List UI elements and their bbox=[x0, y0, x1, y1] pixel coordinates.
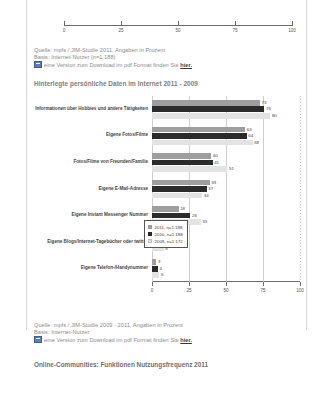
axis-tick-label: 50 bbox=[175, 28, 180, 33]
bar: 3 bbox=[152, 259, 156, 265]
bar-value-label: 51 bbox=[229, 165, 234, 172]
category-label: Fotos/Filme von Freunden/Familie bbox=[73, 160, 148, 165]
statistics-page: 0255075100 Quelle: mpfs / JIM-Studie 201… bbox=[0, 0, 329, 394]
category-label: Informationen über Hobbies und andere Tä… bbox=[35, 107, 148, 112]
legend-swatch bbox=[148, 225, 152, 229]
bar: 80 bbox=[152, 113, 270, 119]
bar: 37 bbox=[152, 186, 207, 192]
source-line-basis-bottom: Basis: Internet-Nutzer bbox=[34, 329, 192, 336]
axis-tick bbox=[178, 21, 179, 26]
bar-group: Fotos/Filme von Freunden/Familie404151 bbox=[152, 153, 300, 172]
download-link-bottom[interactable]: hier. bbox=[180, 337, 192, 343]
legend-label: 2009, n=1.172 bbox=[155, 239, 183, 244]
bar: 63 bbox=[152, 127, 245, 133]
bar-group: Informationen über Hobbies und andere Tä… bbox=[152, 100, 300, 119]
download-note-bottom: eine Version zum Download im pdf Format … bbox=[34, 336, 192, 344]
download-note-text-bottom: eine Version zum Download im pdf Format … bbox=[44, 337, 180, 343]
bar-value-label: 68 bbox=[254, 139, 259, 146]
source-note-bottom: Quelle: mpfs / JIM-Studie 2009 - 2011, A… bbox=[34, 322, 192, 345]
axis-tick-label: 75 bbox=[260, 288, 265, 293]
download-note: eine Version zum Download im pdf Format … bbox=[34, 61, 192, 69]
bar-value-label: 64 bbox=[248, 132, 253, 139]
bar: 41 bbox=[152, 160, 213, 166]
legend-item: 2009, n=1.172 bbox=[148, 238, 183, 245]
pdf-icon bbox=[34, 61, 42, 68]
source-line-quelle-bottom: Quelle: mpfs / JIM-Studie 2009 - 2011, A… bbox=[34, 322, 192, 329]
download-note-text: eine Version zum Download im pdf Format … bbox=[44, 62, 180, 68]
axis-tick bbox=[189, 282, 190, 286]
source-line-quelle: Quelle: mpfs / JIM-Studie 2011, Angaben … bbox=[34, 47, 192, 54]
axis-tick bbox=[300, 282, 301, 286]
bar-value-label: 33 bbox=[202, 218, 207, 225]
bar: 26 bbox=[152, 213, 190, 219]
chart-legend: 2011, n=1.1882010, n=1.1882009, n=1.172 bbox=[144, 220, 188, 248]
axis-tick-label: 0 bbox=[63, 28, 66, 33]
axis-tick bbox=[235, 21, 236, 26]
bar-group: Eigene Telefon-/Handynummer345 bbox=[152, 259, 300, 278]
bar: 73 bbox=[152, 100, 260, 106]
bar: 51 bbox=[152, 166, 227, 172]
pdf-icon bbox=[34, 336, 42, 343]
bar-value-label: 26 bbox=[192, 212, 197, 219]
axis-tick bbox=[263, 282, 264, 286]
bar: 5 bbox=[152, 272, 159, 278]
axis-tick-label: 25 bbox=[118, 28, 123, 33]
bar-value-label: 34 bbox=[204, 192, 209, 199]
bar: 18 bbox=[152, 206, 179, 212]
axis-tick-label: 75 bbox=[232, 28, 237, 33]
bar-chart: 0255075100Informationen über Hobbies und… bbox=[34, 96, 300, 292]
chart-title: Hinterlegte persönliche Daten im Interne… bbox=[34, 80, 198, 87]
legend-item: 2011, n=1.188 bbox=[148, 224, 183, 231]
legend-swatch bbox=[148, 239, 152, 243]
source-line-basis: Basis: Internet-Nutzer (n=1.188) bbox=[34, 54, 192, 61]
axis-tick bbox=[226, 282, 227, 286]
page-left-rule bbox=[26, 0, 27, 330]
axis-tick-label: 100 bbox=[296, 288, 304, 293]
bar-value-label: 76 bbox=[266, 105, 271, 112]
axis-tick bbox=[152, 282, 153, 286]
plot-area: 0255075100Informationen über Hobbies und… bbox=[152, 96, 300, 282]
source-note-top: Quelle: mpfs / JIM-Studie 2011, Angaben … bbox=[34, 47, 192, 70]
bar-group: Eigene Fotos/Filme636468 bbox=[152, 127, 300, 146]
download-link[interactable]: hier. bbox=[180, 62, 192, 68]
axis-tick bbox=[64, 21, 65, 26]
bar: 64 bbox=[152, 133, 247, 139]
axis-tick-label: 50 bbox=[223, 288, 228, 293]
category-label: Eigene Fotos/Filme bbox=[106, 133, 148, 138]
legend-swatch bbox=[148, 232, 152, 236]
previous-chart-axis: 0255075100 bbox=[32, 18, 300, 40]
category-label: Eigene Telefon-/Handynummer bbox=[81, 266, 148, 271]
bar-value-label: 5 bbox=[161, 271, 163, 278]
legend-item: 2010, n=1.188 bbox=[148, 231, 183, 238]
axis-tick-label: 100 bbox=[288, 28, 296, 33]
next-section-heading: Online-Communities: Funktionen Nutzungsf… bbox=[34, 361, 208, 368]
bar: 76 bbox=[152, 106, 264, 112]
bar-value-label: 41 bbox=[214, 159, 219, 166]
axis-tick bbox=[292, 21, 293, 26]
bar: 34 bbox=[152, 193, 202, 199]
category-label: Eigene Instant Messenger Nummer bbox=[71, 213, 148, 218]
gridline bbox=[300, 96, 301, 282]
bar: 39 bbox=[152, 180, 210, 186]
axis-tick-label: 25 bbox=[186, 288, 191, 293]
bar: 68 bbox=[152, 140, 253, 146]
bar-value-label: 80 bbox=[272, 112, 277, 119]
bar-value-label: 37 bbox=[208, 185, 213, 192]
legend-label: 2011, n=1.188 bbox=[155, 225, 183, 230]
bar-value-label: 18 bbox=[180, 205, 185, 212]
category-label: Eigene Blogs/Internet-Tagebücher oder tw… bbox=[47, 240, 148, 245]
axis-tick bbox=[121, 21, 122, 26]
legend-label: 2010, n=1.188 bbox=[155, 232, 183, 237]
page-right-rule bbox=[306, 0, 307, 330]
bar: 40 bbox=[152, 153, 211, 159]
axis-tick-label: 0 bbox=[151, 288, 154, 293]
bar: 4 bbox=[152, 266, 158, 272]
bar-group: Eigene E-Mail-Adresse393734 bbox=[152, 180, 300, 199]
category-label: Eigene E-Mail-Adresse bbox=[98, 187, 148, 192]
